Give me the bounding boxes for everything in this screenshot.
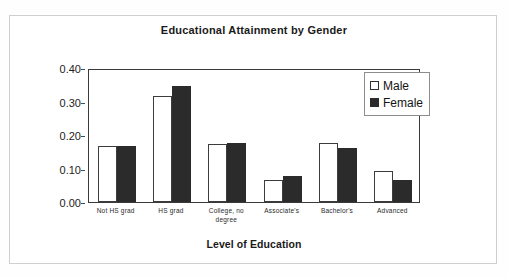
y-tick-label: 0.00 (60, 197, 81, 209)
bar-female (338, 148, 357, 202)
bar-female (117, 146, 136, 202)
bar-female (172, 86, 191, 202)
bar-male (374, 171, 393, 202)
y-tick-label: 0.40 (60, 63, 81, 75)
y-tick-mark (81, 170, 85, 171)
bar-male (153, 96, 172, 202)
x-tick-label: Bachelor's (309, 206, 364, 215)
bar-male (208, 144, 227, 202)
y-tick-mark (81, 203, 85, 204)
x-tick-label: Associate's (254, 206, 309, 215)
y-tick-label: 0.20 (60, 130, 81, 142)
x-tick-label: HS grad (143, 206, 198, 215)
y-axis-ticks: 0.000.100.200.300.40 (45, 60, 85, 212)
y-tick-mark (81, 136, 85, 137)
x-tick-label: Not HS grad (88, 206, 143, 215)
y-tick-mark (81, 69, 85, 70)
x-tick-label: College, no degree (199, 206, 254, 224)
bar-male (319, 143, 338, 202)
bar-female (283, 176, 302, 202)
legend-item-female: Female (370, 94, 423, 111)
bar-female (393, 180, 412, 202)
legend-item-male: Male (370, 77, 423, 94)
chart-legend: Male Female (364, 72, 430, 116)
x-axis-tick-labels: Not HS gradHS gradCollege, no degreeAsso… (88, 206, 420, 236)
bar-group (144, 70, 199, 202)
bar-female (227, 143, 246, 202)
legend-label-female: Female (383, 96, 423, 110)
chart-figure: Educational Attainment by Gender Relativ… (0, 0, 508, 278)
chart-title: Educational Attainment by Gender (0, 24, 508, 36)
bar-group (200, 70, 255, 202)
y-tick-label: 0.10 (60, 164, 81, 176)
bar-group (255, 70, 310, 202)
bar-male (98, 146, 117, 202)
bar-group (89, 70, 144, 202)
legend-swatch-male-icon (370, 81, 379, 90)
y-tick-label: 0.30 (60, 97, 81, 109)
x-axis-title: Level of Education (88, 238, 420, 250)
bar-group (310, 70, 365, 202)
legend-label-male: Male (383, 79, 409, 93)
y-tick-mark (81, 103, 85, 104)
legend-swatch-female-icon (370, 98, 379, 107)
bar-male (264, 180, 283, 202)
x-tick-label: Advanced (365, 206, 420, 215)
